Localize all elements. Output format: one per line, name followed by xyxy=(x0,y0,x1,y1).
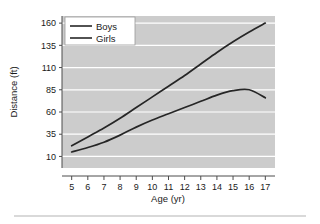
y-tick-label: 10 xyxy=(46,152,56,162)
y-tick-label: 135 xyxy=(41,41,56,51)
x-tick-label: 12 xyxy=(180,182,190,192)
x-tick-label: 16 xyxy=(244,182,254,192)
figure-container: 10356085110135160 567891011121314151617 … xyxy=(0,0,320,224)
x-tick-label: 15 xyxy=(228,182,238,192)
x-tick-label: 5 xyxy=(69,182,74,192)
legend-label-girls: Girls xyxy=(96,33,116,44)
y-tick-label: 85 xyxy=(46,85,56,95)
x-tick-label: 11 xyxy=(164,182,173,192)
x-axis-title: Age (yr) xyxy=(151,193,185,204)
line-chart: 10356085110135160 567891011121314151617 … xyxy=(0,0,320,224)
x-tick-label: 7 xyxy=(101,182,106,192)
x-tick-label: 13 xyxy=(196,182,206,192)
chart-legend[interactable]: Boys Girls xyxy=(65,17,135,45)
x-tick-label: 17 xyxy=(260,182,270,192)
x-tick-label: 10 xyxy=(147,182,157,192)
y-tick-label: 160 xyxy=(41,18,56,28)
x-tick-label: 14 xyxy=(212,182,222,192)
y-tick-label: 60 xyxy=(46,107,56,117)
y-tick-label: 110 xyxy=(42,63,56,73)
x-tick-label: 9 xyxy=(134,182,139,192)
y-axis-title: Distance (ft) xyxy=(8,66,19,117)
x-tick-label: 6 xyxy=(85,182,90,192)
x-tick-label: 8 xyxy=(118,182,123,192)
y-tick-label: 35 xyxy=(46,129,56,139)
legend-label-boys: Boys xyxy=(96,21,117,32)
